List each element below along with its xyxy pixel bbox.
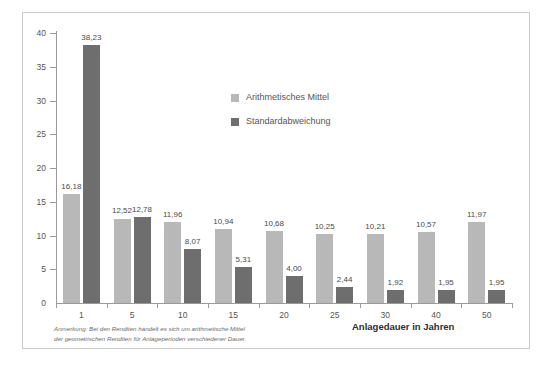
legend-label-mean: Arithmetisches Mittel	[246, 93, 329, 102]
x-axis-tick-label: 20	[269, 311, 299, 320]
legend-item-standardabweichung: Standardabweichung	[231, 116, 331, 127]
bar-value-label: 16,18	[57, 183, 86, 191]
y-axis-tick-label: 40	[6, 29, 46, 38]
chart-footnote: Anmerkung: Bei den Renditen handelt es s…	[54, 324, 344, 343]
bar-mean-50	[468, 222, 485, 303]
x-axis-tick	[461, 303, 462, 308]
legend-swatch-icon-mean	[231, 94, 239, 102]
bar-value-label: 1,92	[381, 279, 410, 287]
bar-mean-10	[164, 222, 181, 303]
bar-sd-20	[286, 276, 303, 303]
x-axis-tick-label: 40	[421, 311, 451, 320]
y-axis-tick-label: 10	[6, 232, 46, 241]
x-axis-tick	[411, 303, 412, 308]
footnote-line-1: Anmerkung: Bei den Renditen handelt es s…	[54, 324, 344, 334]
bar-value-label: 10,94	[209, 218, 238, 226]
legend-label-sd: Standardabweichung	[246, 117, 331, 126]
bar-mean-5	[114, 219, 131, 304]
bar-mean-1	[63, 194, 80, 303]
bar-value-label: 10,21	[361, 223, 390, 231]
bar-value-label: 11,96	[158, 211, 187, 219]
bar-value-label: 11,97	[462, 211, 491, 219]
footnote-line-2: der geometrischen Renditen für Anlageper…	[54, 334, 344, 344]
x-axis-tick	[360, 303, 361, 308]
bar-value-label: 4,00	[280, 265, 309, 273]
bar-mean-30	[367, 234, 384, 303]
bar-sd-10	[184, 249, 201, 303]
x-axis-tick	[208, 303, 209, 308]
x-axis-tick	[157, 303, 158, 308]
bar-sd-50	[488, 290, 505, 303]
bar-sd-40	[438, 290, 455, 303]
y-axis-labels: 0510152025303540	[6, 0, 46, 320]
bar-value-label: 10,57	[412, 221, 441, 229]
bar-value-label: 2,44	[330, 276, 359, 284]
chart-page: 0510152025303540 16,1838,2312,5212,7811,…	[0, 0, 552, 372]
bar-value-label: 10,25	[310, 223, 339, 231]
y-axis-tick-label: 30	[6, 97, 46, 106]
bar-sd-5	[134, 217, 151, 303]
bar-value-label: 12,78	[128, 206, 157, 214]
x-axis-tick-label: 1	[66, 311, 96, 320]
bar-value-label: 1,95	[432, 279, 461, 287]
x-axis-tick-label: 10	[168, 311, 198, 320]
x-axis-tick	[107, 303, 108, 308]
plot-area: 16,1838,2312,5212,7811,968,0710,945,3110…	[56, 33, 512, 303]
legend-item-arithmetisches-mittel: Arithmetisches Mittel	[231, 92, 331, 103]
bar-mean-40	[418, 232, 435, 303]
bar-value-label: 8,07	[178, 238, 207, 246]
y-axis-tick-label: 20	[6, 164, 46, 173]
x-axis-tick-label: 15	[218, 311, 248, 320]
x-axis-tick-label: 50	[472, 311, 502, 320]
bar-sd-30	[387, 290, 404, 303]
x-axis-tick	[512, 303, 513, 308]
bar-value-label: 38,23	[77, 34, 106, 42]
bar-value-label: 5,31	[229, 256, 258, 264]
x-axis-tick	[309, 303, 310, 308]
bar-sd-15	[235, 267, 252, 303]
y-axis-tick-label: 0	[6, 299, 46, 308]
bar-sd-25	[336, 287, 353, 303]
y-axis-tick-label: 15	[6, 198, 46, 207]
x-axis-title: Anlagedauer in Jahren	[352, 321, 454, 332]
bar-value-label: 1,95	[482, 279, 511, 287]
bar-mean-15	[215, 229, 232, 303]
x-axis-tick	[56, 303, 57, 308]
y-axis-tick-label: 25	[6, 130, 46, 139]
x-axis-tick-label: 25	[320, 311, 350, 320]
x-axis-tick-label: 30	[370, 311, 400, 320]
bar-sd-1	[83, 45, 100, 303]
x-axis-tick-label: 5	[117, 311, 147, 320]
y-axis-tick-label: 35	[6, 63, 46, 72]
chart-legend: Arithmetisches Mittel Standardabweichung	[231, 92, 331, 140]
bar-value-label: 10,68	[260, 220, 289, 228]
bar-mean-25	[316, 234, 333, 303]
y-axis-tick-label: 5	[6, 265, 46, 274]
legend-swatch-icon-sd	[231, 118, 239, 126]
x-axis-line	[56, 303, 512, 304]
x-axis-tick	[259, 303, 260, 308]
